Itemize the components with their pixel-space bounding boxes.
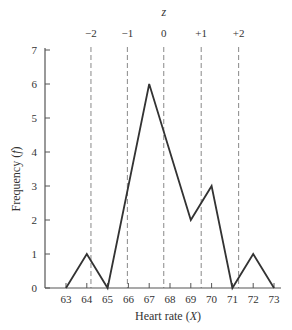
y-tick-label: 6 [32, 78, 38, 90]
z-tick-label: −1 [122, 27, 134, 39]
x-tick-label: 67 [144, 293, 156, 305]
x-tick-label: 69 [185, 293, 197, 305]
y-tick-label: 0 [32, 282, 38, 294]
series [66, 84, 274, 288]
z-tick-label: 0 [161, 27, 167, 39]
x-tick-label: 72 [248, 293, 259, 305]
y-tick-label: 2 [32, 214, 38, 226]
x-tick-label: 63 [61, 293, 73, 305]
y-axis-title-text: Frequency ( [9, 154, 23, 212]
x-axis-title: Heart rate (X) [135, 309, 201, 323]
y-axis-title: Frequency (f) [9, 147, 23, 212]
x-tick-label: 66 [123, 293, 135, 305]
y-tick-label: 5 [32, 112, 38, 124]
x-tick-label: 73 [269, 293, 281, 305]
z-tick-label: +1 [195, 27, 207, 39]
x-tick-label: 65 [102, 293, 114, 305]
x-tick-label: 68 [165, 293, 177, 305]
y-tick-label: 7 [32, 44, 38, 56]
x-axis-title-close: ) [197, 309, 201, 323]
axes [45, 48, 281, 288]
x-tick-label: 71 [227, 293, 238, 305]
y-tick-label: 3 [32, 180, 38, 192]
frequency-polygon-line [66, 84, 274, 288]
y-ticks: 01234567 [32, 44, 51, 294]
z-axis-title: z [160, 5, 166, 19]
y-axis-title-close: ) [9, 147, 23, 151]
x-ticks: 6364656667686970717273 [61, 283, 281, 305]
y-tick-label: 1 [32, 248, 38, 260]
z-score-lines: −2−10+1+2 [85, 27, 244, 288]
x-tick-label: 64 [81, 293, 93, 305]
x-axis-title-text: Heart rate ( [135, 309, 190, 323]
y-tick-label: 4 [32, 146, 38, 158]
frequency-polygon-chart: −2−10+1+2 01234567 636465666768697071727… [0, 0, 292, 330]
z-tick-label: +2 [233, 27, 245, 39]
x-tick-label: 70 [206, 293, 218, 305]
z-tick-label: −2 [85, 27, 97, 39]
